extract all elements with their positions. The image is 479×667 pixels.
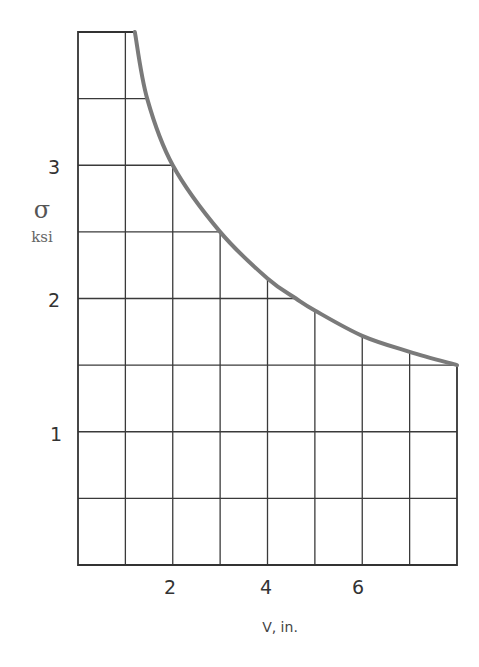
y-tick-1: 1	[50, 423, 62, 445]
x-tick-4: 4	[260, 576, 272, 598]
y-tick-3: 3	[48, 156, 60, 178]
x-axis-label: V, in.	[262, 619, 298, 635]
sigma-vs-v-chart: 3 2 1 σ ksi 2 4 6 V, in.	[0, 0, 479, 667]
data-curve	[135, 32, 457, 365]
x-tick-6: 6	[352, 576, 364, 598]
y-tick-2: 2	[48, 289, 60, 311]
y-axis-unit: ksi	[31, 228, 53, 246]
x-tick-2: 2	[164, 576, 176, 598]
y-axis-symbol: σ	[34, 196, 50, 224]
grid-lines	[78, 32, 457, 565]
